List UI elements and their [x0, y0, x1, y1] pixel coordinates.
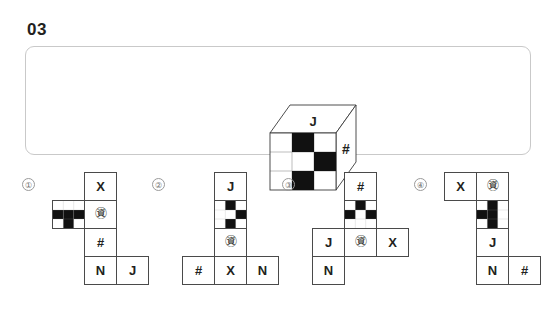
net-cell-label: # [508, 256, 541, 285]
option-1-marker: ① [22, 178, 35, 191]
net-cell-pattern [476, 200, 509, 229]
option-3-marker: ③ [282, 178, 295, 191]
net-cell-pattern [344, 200, 377, 229]
net-cell-label: # [182, 256, 215, 285]
net-cell-label: X [444, 172, 477, 201]
net-cell-label: J [312, 228, 345, 257]
net-cell-pattern [52, 200, 85, 229]
net-cell-label: X [376, 228, 409, 257]
net-cell-label: ㊮ [476, 172, 509, 201]
net-cell-label: J [476, 228, 509, 257]
net-cell-label: X [84, 172, 117, 201]
net-cell-label: ㊮ [84, 200, 117, 229]
net-cell-label: # [344, 172, 377, 201]
net-cell-label: ㊮ [344, 228, 377, 257]
net-cell-label: X [214, 256, 247, 285]
net-cell-pattern [214, 200, 247, 229]
option-4-marker: ④ [414, 178, 427, 191]
net-cell-label: # [84, 228, 117, 257]
prompt-panel: J # [25, 46, 531, 155]
net-cell-label: N [312, 256, 345, 285]
net-cell-label: N [84, 256, 117, 285]
net-cell-label: N [476, 256, 509, 285]
net-cell-label: N [246, 256, 279, 285]
net-cell-label: J [116, 256, 149, 285]
option-2-marker: ② [152, 178, 165, 191]
net-cell-label: J [214, 172, 247, 201]
cube-top-label: J [309, 114, 316, 129]
page-title: 03 [27, 20, 47, 40]
net-cell-label: ㊮ [214, 228, 247, 257]
cube-right-label: # [342, 141, 350, 157]
